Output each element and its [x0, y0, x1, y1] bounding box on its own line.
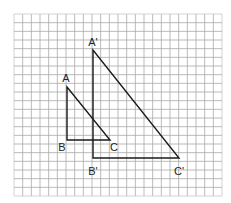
triangle-abc [67, 87, 110, 140]
vertex-label: A' [88, 36, 97, 48]
vertex-label: B [58, 141, 65, 153]
vertex-label: B' [88, 165, 97, 177]
vertex-label: C [110, 141, 118, 153]
grid [14, 14, 222, 196]
vertex-label: A [62, 72, 70, 84]
vertex-label: C' [174, 165, 184, 177]
grid-diagram: ABCA'B'C' [0, 0, 231, 203]
